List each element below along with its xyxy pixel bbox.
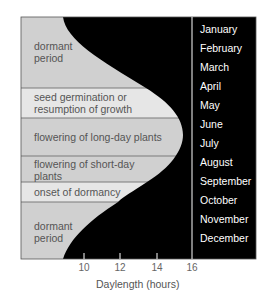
month-label: March (200, 61, 229, 73)
month-label: December (200, 232, 248, 244)
band-label-dormant-bottom: dormant period (34, 220, 73, 244)
label-line: resumption of growth (34, 103, 132, 115)
x-tick-label: 14 (151, 262, 162, 273)
label-line: flowering of long-day plants (34, 131, 162, 143)
label-line: period (34, 52, 73, 64)
band-label-dormant-top: dormant period (34, 40, 73, 64)
x-axis-title: Daylength (hours) (96, 278, 179, 290)
label-line: plants (34, 170, 134, 182)
month-label: January (200, 23, 237, 35)
daylength-diagram: dormant period seed germination or resum… (0, 0, 271, 296)
label-line: flowering of short-day (34, 158, 134, 170)
month-label: April (200, 80, 221, 92)
label-line: onset of dormancy (34, 186, 120, 198)
x-tick-label: 10 (78, 262, 89, 273)
month-label: November (200, 213, 248, 225)
month-label: July (200, 137, 219, 149)
month-label: October (200, 194, 237, 206)
month-label: August (200, 156, 233, 168)
month-label: February (200, 42, 242, 54)
x-tick-label: 16 (186, 262, 197, 273)
label-line: dormant (34, 220, 73, 232)
band-label-seed-germination: seed germination or resumption of growth (34, 91, 132, 115)
label-line: seed germination or (34, 91, 132, 103)
month-label: May (200, 99, 220, 111)
band-label-onset-dormancy: onset of dormancy (34, 186, 120, 198)
x-tick-label: 12 (114, 262, 125, 273)
band-label-flowering-long-day: flowering of long-day plants (34, 131, 162, 143)
label-line: period (34, 232, 73, 244)
label-line: dormant (34, 40, 73, 52)
band-label-flowering-short-day: flowering of short-day plants (34, 158, 134, 182)
month-label: September (200, 175, 251, 187)
month-label: June (200, 118, 223, 130)
